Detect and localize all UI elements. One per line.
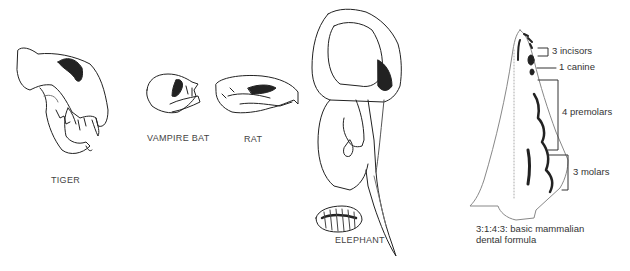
label-vampire-bat: VAMPIRE BAT [147,133,209,143]
tiger-skull-drawing [17,48,108,154]
label-rat: RAT [244,134,262,144]
callout-incisors: 3 incisors [552,45,592,56]
jaw-dental-diagram [470,30,568,220]
callout-molars: 3 molars [573,166,609,177]
label-tiger: TIGER [51,175,80,185]
elephant-molar-drawing [316,206,362,232]
label-elephant: ELEPHANT [335,235,385,245]
mammal-skulls-figure: TIGER VAMPIRE BAT RAT ELEPHANT 3 incisor… [0,0,630,271]
callout-premolars: 4 premolars [562,106,612,117]
rat-skull-drawing [216,75,298,112]
dental-formula-caption: 3:1:4:3: basic mammalian dental formula [476,223,596,245]
vampire-bat-skull-drawing [147,74,200,113]
callout-canine: 1 canine [559,61,595,72]
